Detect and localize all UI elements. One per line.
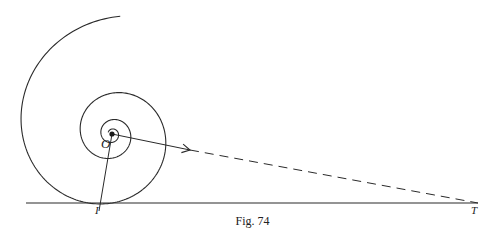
center-point-O	[109, 131, 114, 136]
spiral-diagram	[0, 0, 497, 231]
figure-caption: Fig. 74	[0, 214, 497, 229]
direction-arrow-line	[112, 134, 190, 150]
label-O: O	[101, 137, 110, 150]
logarithmic-spiral	[21, 16, 166, 204]
dashed-line-to-T	[190, 150, 478, 203]
